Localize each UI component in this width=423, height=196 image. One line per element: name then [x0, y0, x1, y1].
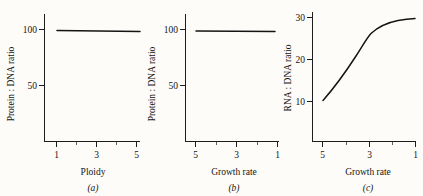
- panel-c-data-line: [323, 19, 415, 101]
- panel-a-xticklabel-1: 1: [54, 150, 59, 160]
- panel-b-x-axis-title: Growth rate: [211, 167, 257, 177]
- panel-c-letter: (c): [363, 183, 374, 194]
- panel-b-letter: (b): [228, 183, 239, 194]
- panel-c-xticklabel-1: 1: [413, 150, 418, 160]
- panel-b-xticklabel-3: 3: [234, 150, 239, 160]
- panel-c-xticklabel-5: 5: [320, 150, 325, 160]
- panel-c-xticklabel-3: 3: [367, 150, 372, 160]
- panel-c: 30 20 10 5 3 1 RNA : DNA ratio Growth ra…: [282, 0, 423, 196]
- panel-a-x-axis-title: Ploidy: [81, 167, 106, 177]
- panel-a-letter: (a): [87, 183, 98, 194]
- panel-c-plot: 30 20 10 5 3 1 RNA : DNA ratio Growth ra…: [282, 0, 423, 196]
- panel-b-yticklabel-100: 100: [164, 25, 179, 35]
- panel-b-xticklabel-5: 5: [193, 150, 198, 160]
- panel-b: 100 50 5 3 1 Protein : DNA ratio Growth …: [141, 0, 282, 196]
- panel-b-y-axis-title: Protein : DNA ratio: [147, 46, 157, 121]
- panel-c-yticklabel-20: 20: [296, 55, 306, 65]
- panel-a-yticklabel-100: 100: [23, 25, 38, 35]
- panel-a-yticklabel-50: 50: [28, 81, 38, 91]
- panel-c-yticklabel-10: 10: [296, 97, 306, 107]
- figure-container: 100 50 1 3 5 Protein : DNA ratio Ploidy …: [0, 0, 423, 196]
- panel-c-x-axis-title: Growth rate: [345, 167, 391, 177]
- panel-a-xticklabel-3: 3: [94, 150, 99, 160]
- panel-a-data-line: [57, 31, 140, 32]
- panel-c-y-axis-title: RNA : DNA ratio: [283, 44, 293, 111]
- panel-a: 100 50 1 3 5 Protein : DNA ratio Ploidy …: [0, 0, 141, 196]
- panel-a-y-axis-title: Protein : DNA ratio: [6, 46, 16, 121]
- panel-c-yticklabel-30: 30: [296, 13, 306, 23]
- panel-b-xticklabel-1: 1: [275, 150, 280, 160]
- panel-a-xticklabel-5: 5: [134, 150, 139, 160]
- panel-b-plot: 100 50 5 3 1 Protein : DNA ratio Growth …: [141, 0, 282, 196]
- panel-a-plot: 100 50 1 3 5 Protein : DNA ratio Ploidy …: [0, 0, 141, 196]
- panel-b-yticklabel-50: 50: [169, 81, 179, 91]
- panel-b-data-line: [196, 31, 275, 32]
